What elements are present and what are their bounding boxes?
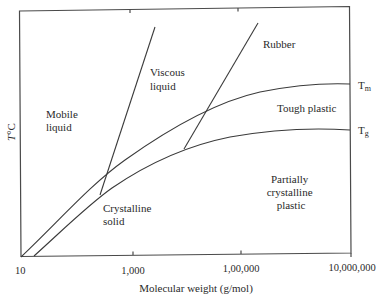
tg-label: Tg xyxy=(358,124,369,138)
rubber-boundary-line xyxy=(184,23,258,149)
region-crystalline-solid: Crystalline solid xyxy=(103,202,154,227)
region-partially-crystalline-plastic: Partially crystalline plastic xyxy=(267,173,316,211)
region-tough-plastic: Tough plastic xyxy=(277,102,337,114)
x-axis-title: Molecular weight (g/mol) xyxy=(139,282,253,295)
phase-diagram: Mobile liquid Viscous liquid Rubber Toug… xyxy=(0,0,384,300)
x-tick-label-1000: 1,000 xyxy=(121,265,145,276)
region-rubber: Rubber xyxy=(263,38,296,50)
x-tick-label-10: 10 xyxy=(15,265,26,276)
tm-label: Tm xyxy=(358,79,372,93)
y-axis-title: T°C xyxy=(5,123,17,141)
viscous-boundary-line xyxy=(100,27,155,195)
region-mobile-liquid: Mobile liquid xyxy=(46,108,81,133)
x-tick-label-100000: 1,00,000 xyxy=(223,263,260,274)
x-tick-label-10000000: 10,000,000 xyxy=(328,262,375,273)
region-viscous-liquid: Viscous liquid xyxy=(150,66,188,92)
